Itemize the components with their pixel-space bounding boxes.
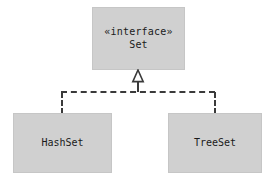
uml-node-hashset[interactable]: HashSet: [13, 113, 112, 173]
uml-node-set-name: Set: [129, 39, 148, 52]
connector-stem-treeset: [214, 92, 216, 114]
uml-node-treeset-name: TreeSet: [194, 137, 236, 150]
uml-node-set-stereotype: «interface»: [104, 26, 172, 39]
uml-node-set[interactable]: «interface» Set: [92, 7, 185, 70]
uml-node-treeset[interactable]: TreeSet: [168, 113, 262, 173]
connector-rail-horizontal: [61, 91, 215, 93]
uml-node-hashset-name: HashSet: [41, 137, 83, 150]
uml-diagram-canvas: «interface» Set HashSet TreeSet: [0, 0, 273, 181]
connector-stem-hashset: [61, 92, 63, 114]
